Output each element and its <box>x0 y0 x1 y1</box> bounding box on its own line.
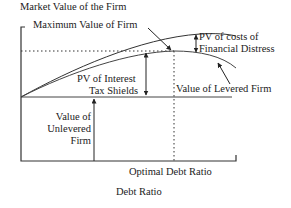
unlevered-label-1: Value of <box>41 111 91 123</box>
optimal-debt-label: Optimal Debt Ratio <box>129 166 212 178</box>
pv-tax-label-1: PV of Interest <box>77 73 136 85</box>
levered-value-label: Value of Levered Firm <box>176 83 271 95</box>
unlevered-label-2: Unlevered <box>41 123 91 135</box>
max-value-pointer-arrow <box>148 28 171 50</box>
pv-distress-label-1: PV of costs of <box>199 31 259 43</box>
y-axis-label: Market Value of the Firm <box>20 1 127 13</box>
levered-pointer-arrow <box>218 63 230 84</box>
pv-distress-label-2: Financial Distress <box>199 43 275 55</box>
max-value-label: Maximum Value of Firm <box>33 19 138 31</box>
pv-tax-label-2: Tax Shields <box>89 85 138 97</box>
unlevered-label-3: Firm <box>41 135 91 147</box>
x-axis-label: Debt Ratio <box>116 186 162 198</box>
